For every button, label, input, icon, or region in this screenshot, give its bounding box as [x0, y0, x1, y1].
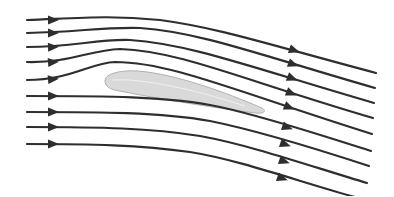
arrow-right-icon — [48, 92, 59, 101]
arrow-right-icon — [48, 140, 59, 149]
airfoil-streamline-diagram — [0, 0, 394, 196]
streamline-path — [27, 127, 367, 183]
arrow-right-icon — [48, 29, 59, 38]
arrow-right-icon — [288, 44, 301, 56]
arrow-right-icon — [48, 57, 60, 67]
streamline-path — [27, 112, 369, 166]
arrow-right-icon — [48, 74, 60, 84]
streamline — [27, 140, 355, 197]
streamline — [27, 49, 373, 118]
streamline-path — [27, 144, 355, 196]
arrow-right-icon — [283, 101, 297, 113]
streamline-path — [27, 49, 373, 118]
arrow-right-icon — [48, 108, 59, 117]
arrow-right-icon — [286, 72, 299, 84]
streamline-path — [27, 96, 371, 151]
arrow-right-icon — [48, 16, 59, 25]
arrow-right-icon — [48, 123, 59, 132]
arrow-right-icon — [48, 42, 59, 51]
